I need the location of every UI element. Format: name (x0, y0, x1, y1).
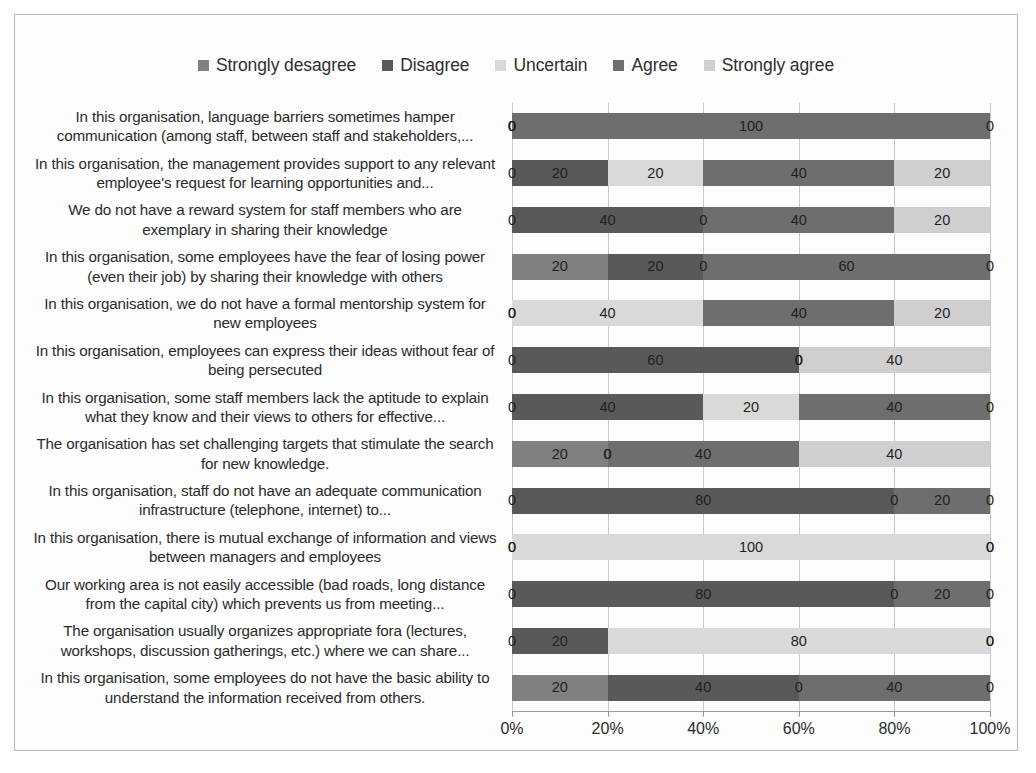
bar-row[interactable]: 0001000 (512, 113, 990, 139)
bar-segment[interactable]: 40 (703, 160, 894, 186)
category-label: The organisation has set challenging tar… (33, 434, 497, 473)
legend-swatch-icon (198, 60, 209, 71)
bar-segment[interactable]: 40 (799, 675, 990, 701)
bar-value-label: 0 (890, 493, 898, 508)
bar-value-label: 40 (695, 447, 711, 462)
bar-segment[interactable]: 40 (703, 300, 894, 326)
bar-value-label: 100 (739, 119, 763, 134)
bar-value-label: 20 (552, 634, 568, 649)
bar-row[interactable]: 20400400 (512, 675, 990, 701)
legend-item-2[interactable]: Uncertain (495, 55, 587, 76)
category-label: In this organisation, some employees hav… (33, 247, 497, 286)
bar-value-label: 0 (986, 493, 994, 508)
bar-row[interactable]: 04004020 (512, 207, 990, 233)
x-tick-label: 100% (970, 720, 1011, 738)
bar-value-label: 80 (695, 493, 711, 508)
bar-row[interactable]: 04020400 (512, 394, 990, 420)
bar-row[interactable]: 020204020 (512, 160, 990, 186)
category-label: The organisation usually organizes appro… (33, 621, 497, 660)
bar-segment[interactable]: 40 (512, 207, 703, 233)
category-label: In this organisation, there is mutual ex… (33, 528, 497, 567)
bar-value-label: 0 (699, 213, 707, 228)
bar-segment[interactable]: 20 (894, 160, 990, 186)
bar-value-label: 60 (647, 353, 663, 368)
bar-row[interactable]: 0208000 (512, 628, 990, 654)
bar-value-label: 0 (508, 493, 516, 508)
bar-value-label: 0 (508, 587, 516, 602)
bar-value-label: 20 (743, 400, 759, 415)
bar-segment[interactable]: 100 (512, 534, 990, 560)
bar-row[interactable]: 20004040 (512, 441, 990, 467)
bar-segment[interactable]: 20 (512, 441, 608, 467)
bar-segment[interactable]: 20 (894, 207, 990, 233)
x-tick (799, 711, 800, 717)
bar-value-label: 20 (552, 166, 568, 181)
bar-segment[interactable]: 20 (894, 488, 990, 514)
legend-label: Strongly agree (722, 55, 834, 76)
bar-value-label: 20 (934, 587, 950, 602)
bar-value-label: 20 (552, 259, 568, 274)
bar-segment[interactable]: 40 (512, 394, 703, 420)
bar-row[interactable]: 0600040 (512, 347, 990, 373)
legend-item-0[interactable]: Strongly desagree (198, 55, 356, 76)
legend-label: Strongly desagree (216, 55, 356, 76)
bar-value-label: 80 (791, 634, 807, 649)
bar-segment[interactable]: 40 (608, 441, 799, 467)
bar-value-label: 40 (600, 400, 616, 415)
bar-segment[interactable]: 20 (608, 254, 704, 280)
bar-value-label: 0 (604, 447, 612, 462)
bar-row[interactable]: 0800200 (512, 581, 990, 607)
chart-figure: Strongly desagreeDisagreeUncertainAgreeS… (14, 14, 1018, 751)
category-label: We do not have a reward system for staff… (33, 200, 497, 239)
bar-segment[interactable]: 20 (894, 300, 990, 326)
legend-swatch-icon (495, 60, 506, 71)
bar-value-label: 40 (791, 166, 807, 181)
bar-value-label: 100 (739, 540, 763, 555)
bar-segment[interactable]: 60 (512, 347, 799, 373)
bar-value-label: 0 (986, 259, 994, 274)
bar-value-label: 0 (508, 353, 516, 368)
bar-row[interactable]: 0800200 (512, 488, 990, 514)
bar-segment[interactable]: 80 (512, 488, 894, 514)
bar-row[interactable]: 00404020 (512, 300, 990, 326)
bar-segment[interactable]: 40 (703, 207, 894, 233)
bar-segment[interactable]: 100 (512, 113, 990, 139)
category-label: In this organisation, staff do not have … (33, 481, 497, 520)
bar-value-label: 80 (695, 587, 711, 602)
bar-segment[interactable]: 20 (703, 394, 799, 420)
bar-segment[interactable]: 40 (799, 347, 990, 373)
category-label: Our working area is not easily accessibl… (33, 575, 497, 614)
bar-value-label: 0 (508, 306, 516, 321)
bar-value-label: 0 (508, 634, 516, 649)
bar-segment[interactable]: 20 (512, 628, 608, 654)
x-tick (608, 711, 609, 717)
legend-item-3[interactable]: Agree (613, 55, 677, 76)
bar-segment[interactable]: 60 (703, 254, 990, 280)
bar-segment[interactable]: 80 (608, 628, 990, 654)
category-label: In this organisation, the management pro… (33, 154, 497, 193)
bar-value-label: 0 (890, 587, 898, 602)
bar-segment[interactable]: 40 (512, 300, 703, 326)
bar-row[interactable]: 0010000 (512, 534, 990, 560)
bar-segment[interactable]: 40 (799, 441, 990, 467)
bar-value-label: 0 (795, 353, 803, 368)
bar-segment[interactable]: 20 (894, 581, 990, 607)
bar-segment[interactable]: 80 (512, 581, 894, 607)
legend-item-1[interactable]: Disagree (382, 55, 469, 76)
bar-rows: 0001000020204020040040202020060000404020… (512, 103, 990, 711)
category-label: In this organisation, some employees do … (33, 668, 497, 707)
bar-value-label: 20 (934, 493, 950, 508)
bar-segment[interactable]: 20 (512, 675, 608, 701)
x-tick-label: 40% (687, 720, 719, 738)
bar-segment[interactable]: 40 (799, 394, 990, 420)
bar-segment[interactable]: 40 (608, 675, 799, 701)
category-label: In this organisation, employees can expr… (33, 341, 497, 380)
bar-value-label: 20 (934, 306, 950, 321)
legend-item-4[interactable]: Strongly agree (704, 55, 834, 76)
bar-row[interactable]: 20200600 (512, 254, 990, 280)
bar-segment[interactable]: 20 (512, 160, 608, 186)
bar-segment[interactable]: 20 (608, 160, 704, 186)
bar-value-label: 40 (695, 680, 711, 695)
bar-value-label: 40 (886, 400, 902, 415)
bar-segment[interactable]: 20 (512, 254, 608, 280)
